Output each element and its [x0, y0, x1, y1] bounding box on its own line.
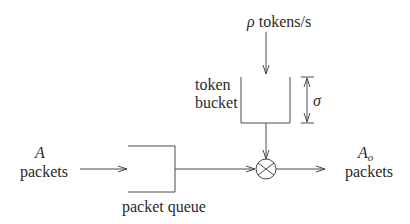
output-symbol-label: Ao: [357, 144, 374, 163]
gate-multiplier-icon: [256, 159, 276, 179]
bucket-depth-sigma-label: σ: [313, 92, 322, 109]
token-bucket: [241, 77, 290, 123]
input-packets-label: packets: [20, 163, 68, 181]
input-symbol-label: A: [34, 144, 45, 161]
packet-queue: [128, 146, 175, 192]
token-bucket-diagram: ρ tokens/s token bucket σ A packets pack…: [0, 0, 410, 224]
token-bucket-label-line2: bucket: [195, 94, 238, 111]
token-rate-label: ρ tokens/s: [246, 13, 311, 31]
token-bucket-label-line1: token: [195, 76, 231, 93]
output-packets-label: packets: [345, 163, 393, 181]
packet-queue-label: packet queue: [122, 198, 206, 216]
